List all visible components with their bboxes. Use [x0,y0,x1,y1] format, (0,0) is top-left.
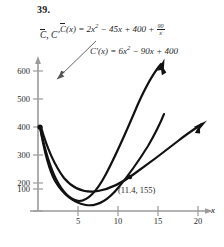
average-cost-arrowhead [194,121,207,134]
x-tick-label-10: 10 [110,216,126,226]
y-axis-label-rest: , C′ [46,30,59,40]
equation-marginal-cost-lhs: C′(x) [90,46,108,56]
intersection-label: (11.4, 155) [118,185,155,195]
x-tick-label-5: 5 [70,216,86,226]
equation-average-cost-t2: − 45x [101,24,122,34]
y-tick-label-300: 300 [8,150,30,160]
curve-marginal-cost-cprime [40,64,161,201]
equation-marginal-cost-eq: = [110,46,116,56]
equation-marginal-cost: C′(x) = 6x2 − 90x + 400 [90,44,178,56]
equation-average-cost-lhs-bar: C [60,24,66,34]
equation-average-cost-eq: = [78,24,84,34]
equation-marginal-cost-t2: − 90x [133,46,154,56]
y-tick-label-600: 600 [8,66,30,76]
x-tick-label-15: 15 [150,216,166,226]
y-tick-label-500: 500 [8,94,30,104]
y-axis-label: C, C′ [40,30,60,40]
x-axis-label: x [211,205,215,215]
y-axis-arrowhead [35,56,41,64]
graph-figure [0,0,224,247]
problem-number: 39. [37,4,50,15]
fraction-numerator: 90 [157,23,165,30]
leader-arrowhead [57,71,65,80]
equation-average-cost-t3: + 400 + [124,24,154,34]
equation-average-cost-lhs: (x) [66,24,76,34]
fraction-denominator: x [157,30,165,36]
y-tick-label-100: 100 [8,184,30,194]
y-axis-label-cbar: C [40,30,46,40]
y-intercept-dot [37,124,42,129]
equation-average-cost-t1: 2x2 [87,24,99,34]
x-tick-label-20: 20 [190,216,206,226]
intersection-dot [128,175,132,179]
equation-marginal-cost-t1: 6x2 [119,46,131,56]
equation-marginal-cost-t3: + 400 [156,46,178,56]
equation-average-cost-fraction: 90 x [157,23,165,37]
y-tick-label-400: 400 [8,122,30,132]
equation-average-cost: C(x) = 2x2 − 45x + 400 + 90 x [60,22,165,37]
